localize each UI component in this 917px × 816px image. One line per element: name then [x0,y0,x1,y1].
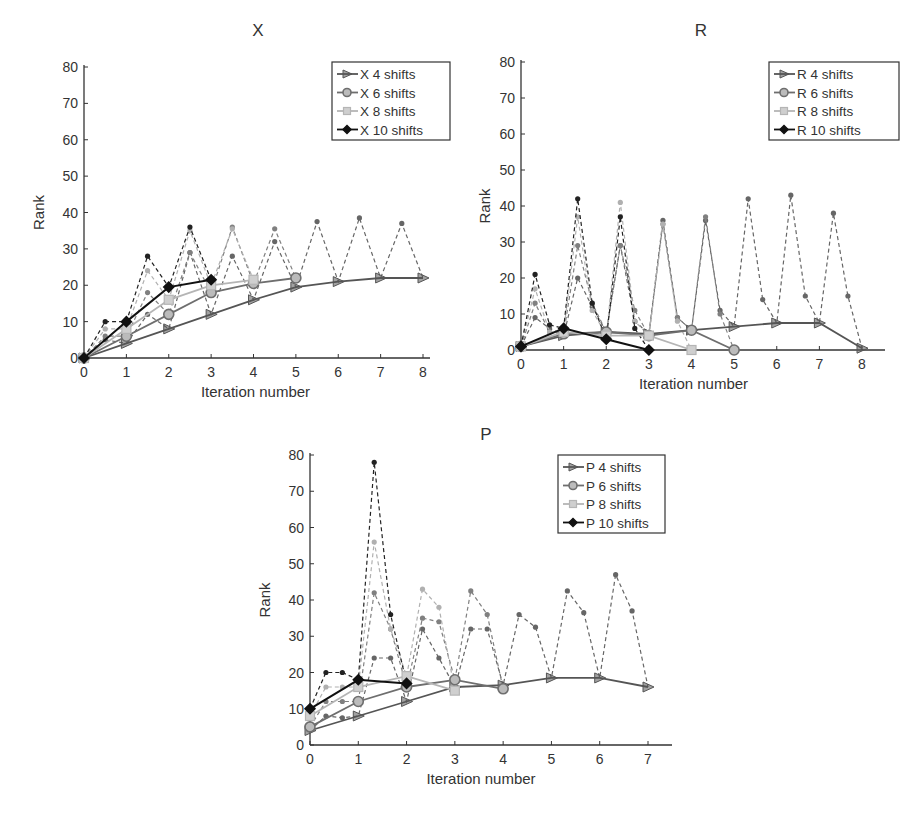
x-tick-label: 4 [250,364,258,380]
legend-entry: X 4 shifts [360,67,416,82]
star-marker-icon [618,243,623,248]
circle-marker-icon [343,89,351,97]
star-marker-icon [388,626,393,631]
star-marker-icon [632,326,637,331]
y-tick-label: 30 [62,241,78,257]
circle-marker-icon [569,482,577,490]
y-tick-label: 10 [62,314,78,330]
x-tick-label: 2 [602,356,610,372]
star-marker-icon [372,655,377,660]
star-marker-icon [372,460,377,465]
x-axis-label: Iteration number [201,383,310,400]
star-marker-icon [468,588,473,593]
x-tick-label: 6 [773,356,781,372]
y-tick-label: 60 [499,126,515,142]
star-marker-icon [788,193,793,198]
circle-marker-icon [353,697,363,707]
chart-p-panel: P0102030405060708001234567Iteration numb… [256,425,672,787]
x-tick-label: 5 [292,364,300,380]
y-tick-label: 80 [288,447,304,463]
star-marker-icon [516,612,521,617]
x-tick-label: 6 [334,364,342,380]
star-marker-icon [590,301,595,306]
triangle-marker-icon [249,295,260,305]
chart-title: R [695,21,707,40]
star-marker-icon [613,572,618,577]
y-tick-label: 40 [288,592,304,608]
star-marker-icon [845,293,850,298]
circle-marker-icon [687,325,697,335]
y-tick-label: 40 [62,205,78,221]
star-marker-icon [565,588,570,593]
legend-entry: X 10 shifts [360,123,423,138]
y-axis-label: Rank [256,582,273,618]
star-marker-icon [399,221,404,226]
y-tick-label: 10 [288,701,304,717]
star-marker-icon [575,196,580,201]
star-marker-icon [547,322,552,327]
dashed-trace [310,542,455,716]
star-marker-icon [372,590,377,595]
star-marker-icon [746,196,751,201]
legend-entry: X 6 shifts [360,86,416,101]
star-marker-icon [581,610,586,615]
star-marker-icon [675,319,680,324]
x-tick-label: 0 [80,364,88,380]
star-marker-icon [532,272,537,277]
star-marker-icon [187,250,192,255]
x-axis-label: Iteration number [639,375,748,392]
square-marker-icon [249,275,258,284]
star-marker-icon [468,626,473,631]
chart-title: P [480,425,491,444]
y-tick-label: 0 [70,350,78,366]
x-tick-label: 4 [499,751,507,767]
x-tick-label: 5 [548,751,556,767]
series-line [521,328,649,350]
triangle-marker-icon [643,682,654,692]
y-tick-label: 80 [499,54,515,70]
star-marker-icon [660,221,665,226]
legend-entry: R 10 shifts [797,123,861,138]
x-tick-label: 3 [207,364,215,380]
x-tick-label: 6 [596,751,604,767]
x-tick-label: 3 [451,751,459,767]
x-tick-label: 1 [354,751,362,767]
x-tick-label: 8 [419,364,427,380]
square-marker-icon [781,108,788,115]
star-marker-icon [632,319,637,324]
star-marker-icon [703,214,708,219]
star-marker-icon [760,297,765,302]
star-marker-icon [340,699,345,704]
star-marker-icon [420,587,425,592]
x-tick-label: 0 [517,356,525,372]
y-tick-label: 0 [507,342,515,358]
square-marker-icon [644,331,653,340]
star-marker-icon [103,326,108,331]
x-tick-label: 7 [644,751,652,767]
circle-marker-icon [450,675,460,685]
star-marker-icon [372,539,377,544]
dashed-trace [310,591,503,727]
series-line [84,278,296,358]
x-tick-label: 7 [815,356,823,372]
x-tick-label: 0 [306,751,314,767]
x-tick-label: 5 [730,356,738,372]
star-marker-icon [629,608,634,613]
star-marker-icon [532,286,537,291]
circle-marker-icon [164,309,174,319]
x-tick-label: 2 [165,364,173,380]
y-tick-label: 10 [499,306,515,322]
star-marker-icon [323,684,328,689]
star-marker-icon [340,670,345,675]
star-marker-icon [272,226,277,231]
star-marker-icon [145,268,150,273]
y-axis-label: Rank [30,194,47,230]
y-tick-label: 50 [288,556,304,572]
star-marker-icon [532,301,537,306]
star-marker-icon [533,625,538,630]
y-tick-label: 30 [499,234,515,250]
star-marker-icon [388,612,393,617]
star-marker-icon [831,211,836,216]
y-tick-label: 50 [499,162,515,178]
star-marker-icon [436,605,441,610]
